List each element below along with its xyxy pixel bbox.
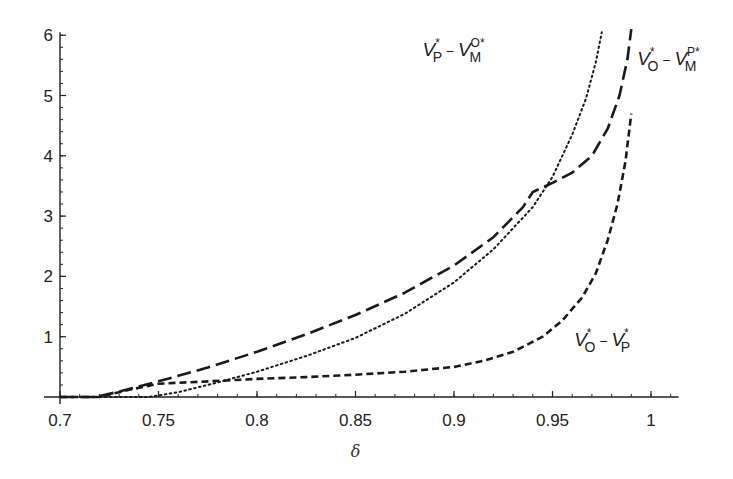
series-line-short-dash (60, 114, 631, 397)
series-label: V*P − VO*M (422, 36, 484, 65)
label-superscript: * (435, 36, 440, 50)
x-tick-label: 0.8 (245, 411, 269, 430)
y-tick-label: 3 (44, 207, 53, 226)
label-minus: − (442, 43, 458, 59)
series-annotations: V*O − VP*MV*P − VO*MV*O − V*P (422, 36, 700, 354)
series-layer (60, 29, 631, 397)
x-tick-label: 0.9 (442, 411, 466, 430)
y-tick-label: 2 (44, 267, 53, 286)
y-tick-label: 1 (44, 328, 53, 347)
y-ticks: 123456 (44, 26, 66, 347)
label-superscript: O* (471, 36, 485, 50)
y-tick-label: 4 (44, 147, 53, 166)
y-tick-label: 6 (44, 26, 53, 45)
x-tick-label: 1 (646, 411, 655, 430)
label-subscript: O (648, 58, 659, 74)
label-subscript: P (621, 339, 630, 355)
x-tick-label: 0.85 (339, 411, 372, 430)
series-label: V*O − V*P (574, 326, 630, 355)
x-tick-label: 0.7 (48, 411, 72, 430)
label-superscript: P* (687, 45, 700, 59)
x-axis-label: δ (351, 442, 361, 461)
label-subscript: M (685, 58, 697, 74)
label-subscript: O (585, 339, 596, 355)
label-superscript: * (650, 45, 655, 59)
y-tick-label: 5 (44, 87, 53, 106)
line-chart: 0.70.750.80.850.90.951 123456 V*O − VP*M… (0, 0, 733, 479)
label-superscript: * (624, 326, 629, 340)
series-line-long-dash (60, 29, 631, 397)
label-subscript: M (470, 49, 482, 65)
label-minus: − (658, 52, 674, 68)
series-label: V*O − VP*M (637, 45, 700, 74)
label-minus: − (595, 333, 611, 349)
axes: 0.70.750.80.850.90.951 123456 (44, 26, 679, 430)
series-line-dotted (60, 32, 602, 397)
x-tick-label: 0.95 (536, 411, 569, 430)
label-subscript: P (433, 49, 442, 65)
x-tick-label: 0.75 (142, 411, 175, 430)
label-superscript: * (587, 326, 592, 340)
